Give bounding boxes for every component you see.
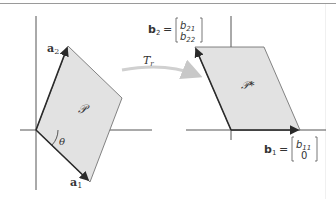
svg-text:0: 0: [301, 150, 307, 161]
right-panel: 𝒫* b2 = b21 b22 b1 = b11 0: [148, 16, 326, 161]
curved-arrow: [122, 67, 197, 75]
svg-text:=: =: [279, 143, 288, 156]
b1-label: b1 = b11 0: [264, 137, 317, 161]
svg-text:b2: b2: [148, 23, 160, 37]
a1-label: a1: [70, 176, 82, 190]
svg-text:b1: b1: [264, 143, 276, 157]
transform-label: Tr: [143, 54, 154, 68]
left-panel: 𝒫 θ a2 a1: [20, 16, 152, 190]
lattice-basis-diagram: 𝒫 θ a2 a1 Tr 𝒫* b2 = b21 b22 b1 =: [0, 0, 336, 199]
region-P-star-label: 𝒫*: [241, 79, 255, 92]
a2-label: a2: [47, 42, 59, 56]
b2-label: b2 = b21 b22: [148, 18, 202, 44]
transform-arrow: Tr: [122, 54, 197, 75]
theta-label: θ: [59, 136, 65, 147]
svg-text:=: =: [163, 23, 172, 36]
